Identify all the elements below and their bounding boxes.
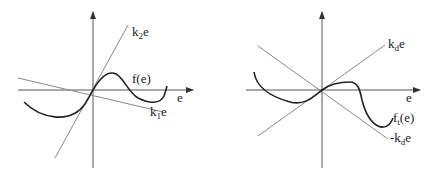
right-neg-kde-line bbox=[258, 46, 388, 139]
right-x-axis-label: e bbox=[406, 90, 412, 105]
right-ft-label: ft(e) bbox=[393, 110, 414, 127]
left-k2e-label: k2e bbox=[132, 24, 149, 41]
right-kde-label: kde bbox=[388, 36, 405, 53]
left-k1e-label: k1e bbox=[150, 104, 167, 121]
right-ft-curve bbox=[254, 72, 393, 127]
left-f-label: f(e) bbox=[132, 71, 151, 86]
right-neg-kde-label: -kde bbox=[390, 130, 411, 147]
diagram-canvas: k2e f(e) e k1e kde e ft(e) -kde bbox=[0, 0, 434, 175]
left-x-axis-label: e bbox=[177, 90, 183, 105]
right-panel: kde e ft(e) -kde bbox=[246, 12, 420, 168]
left-panel: k2e f(e) e k1e bbox=[18, 12, 193, 168]
